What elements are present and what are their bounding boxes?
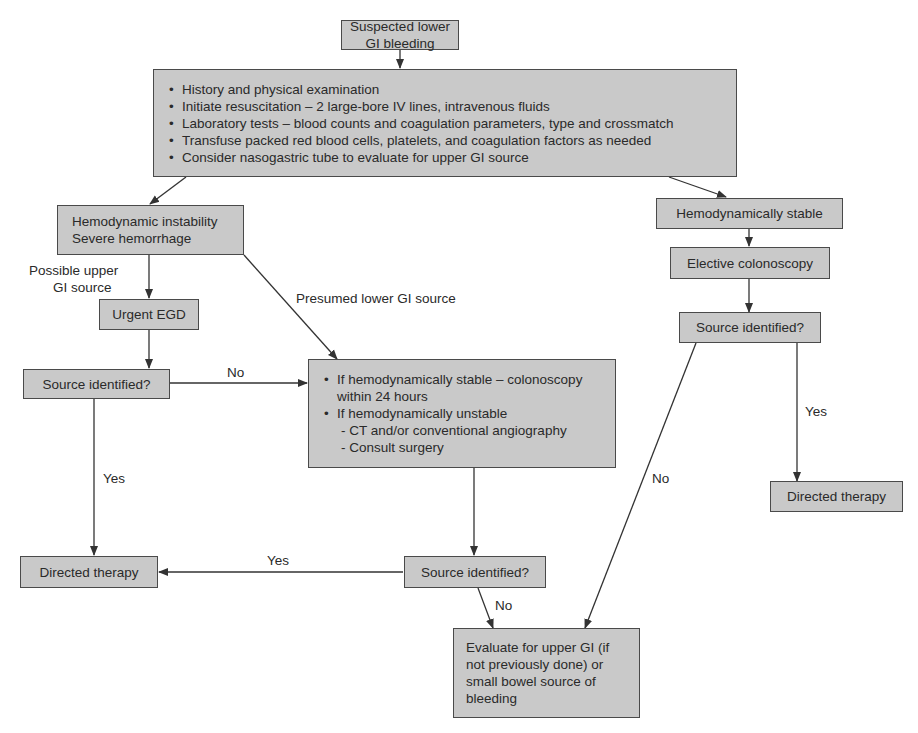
node-hemodynamically-stable: Hemodynamically stable xyxy=(656,198,843,229)
initial-management-list: History and physical examination Initiat… xyxy=(168,81,674,166)
list-item: Initiate resuscitation – 2 large-bore IV… xyxy=(182,98,674,115)
node-label: Suspected lower GI bleeding xyxy=(342,18,458,52)
node-label: Directed therapy xyxy=(39,564,138,581)
node-label: Source identified? xyxy=(42,376,150,393)
node-label: Evaluate for upper GI (if not previously… xyxy=(466,639,627,707)
node-elective-colonoscopy: Elective colonoscopy xyxy=(670,247,830,279)
edge-label-possible-upper: Possible upper GI source xyxy=(29,262,118,296)
flowchart-canvas: Suspected lower GI bleeding History and … xyxy=(0,0,918,733)
node-initial-management: History and physical examination Initiat… xyxy=(153,69,737,177)
edge-initial-to-stable xyxy=(669,177,726,197)
node-hemodynamic-instability: Hemodynamic instability Severe hemorrhag… xyxy=(57,205,244,255)
edge-label-yes-left: Yes xyxy=(103,470,125,487)
node-label: Urgent EGD xyxy=(112,306,186,323)
list-item: If hemodynamically stable – colonoscopy … xyxy=(337,371,582,405)
list-item: Consider nasogastric tube to evaluate fo… xyxy=(182,149,674,166)
node-suspected-lower-gi-bleeding: Suspected lower GI bleeding xyxy=(341,20,459,50)
node-source-identified-left: Source identified? xyxy=(23,369,170,399)
node-lower-gi-management: If hemodynamically stable – colonoscopy … xyxy=(308,359,616,468)
node-directed-therapy-left: Directed therapy xyxy=(20,556,158,588)
edge-label-no-left: No xyxy=(227,364,244,381)
node-urgent-egd: Urgent EGD xyxy=(99,299,199,330)
sub-item: - CT and/or conventional angiography xyxy=(337,422,582,439)
edge-label-no-right: No xyxy=(652,470,669,487)
node-directed-therapy-right: Directed therapy xyxy=(770,481,903,512)
sub-item: - Consult surgery xyxy=(337,439,582,456)
node-label: Source identified? xyxy=(421,564,529,581)
node-source-identified-mid: Source identified? xyxy=(404,556,546,588)
edge-label-presumed-lower: Presumed lower GI source xyxy=(296,290,456,307)
list-item: If hemodynamically unstable xyxy=(337,405,582,422)
list-item: Transfuse packed red blood cells, platel… xyxy=(182,132,674,149)
edge-initial-to-unstable xyxy=(150,177,186,204)
edge-label-no-mid: No xyxy=(495,597,512,614)
list-item: Laboratory tests – blood counts and coag… xyxy=(182,115,674,132)
node-label-line2: Severe hemorrhage xyxy=(72,230,218,247)
node-label: Directed therapy xyxy=(787,488,886,505)
lower-gi-management-list: If hemodynamically stable – colonoscopy … xyxy=(323,371,582,456)
edge-label-yes-mid: Yes xyxy=(267,552,289,569)
list-item: History and physical examination xyxy=(182,81,674,98)
node-label: Hemodynamically stable xyxy=(676,205,822,222)
node-label-line1: Hemodynamic instability xyxy=(72,213,218,230)
node-source-identified-right: Source identified? xyxy=(679,312,821,343)
edge-unstable-to-management xyxy=(244,255,337,359)
node-evaluate-upper-gi-small-bowel: Evaluate for upper GI (if not previously… xyxy=(453,628,640,718)
node-label: Elective colonoscopy xyxy=(687,255,813,272)
edge-label-yes-right: Yes xyxy=(805,403,827,420)
edge-source-mid-no xyxy=(478,588,493,628)
node-label: Source identified? xyxy=(696,319,804,336)
